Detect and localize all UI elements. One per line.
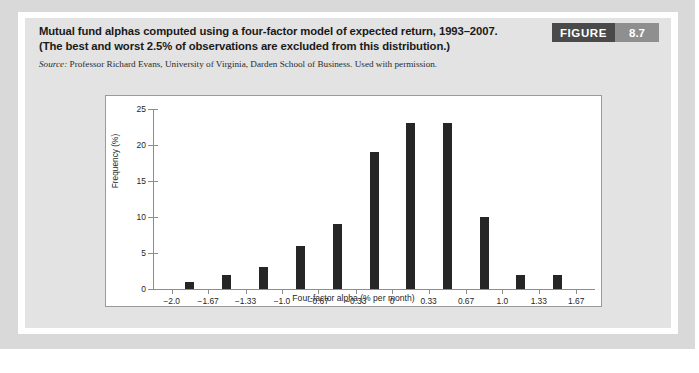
x-axis-tick <box>429 289 430 294</box>
x-axis-tick-label: −1.67 <box>188 296 228 306</box>
x-axis-tick-label: 0 <box>372 296 412 306</box>
x-axis-tick-label: 0.67 <box>446 296 486 306</box>
histogram-bar <box>185 282 194 289</box>
y-axis-tick <box>148 181 158 182</box>
x-axis-tick <box>539 289 540 294</box>
caption-line-2: (The best and worst 2.5% of observations… <box>39 39 529 54</box>
x-axis-tick <box>466 289 467 294</box>
x-axis-tick-label: −1.33 <box>226 296 266 306</box>
y-axis-title: Frequency (%) <box>110 111 120 211</box>
histogram-bar <box>259 267 268 289</box>
histogram-bar <box>406 123 415 289</box>
source-line: Source: Professor Richard Evans, Univers… <box>39 59 529 69</box>
x-axis-tick-label: 0.33 <box>409 296 449 306</box>
y-axis-tick <box>148 109 158 110</box>
x-axis-tick <box>392 289 393 294</box>
plot-area: Frequency (%) Four-factor alpha (% per m… <box>106 96 601 306</box>
y-axis-tick-label: 15 <box>106 176 146 186</box>
histogram-bar <box>296 246 305 289</box>
caption-line-1: Mutual fund alphas computed using a four… <box>39 24 529 39</box>
x-axis-tick-label: −1.0 <box>262 296 302 306</box>
histogram-bar <box>333 224 342 289</box>
y-axis-tick-label: 5 <box>106 248 146 258</box>
y-axis-tick-label: 20 <box>106 140 146 150</box>
x-axis-tick <box>318 289 319 294</box>
source-label: Source: <box>39 59 67 69</box>
figure-header: Mutual fund alphas computed using a four… <box>39 24 529 69</box>
x-axis-tick-label: −0.33 <box>336 296 376 306</box>
x-axis-tick <box>208 289 209 294</box>
x-axis-tick <box>356 289 357 294</box>
x-axis-tick-label: 1.0 <box>482 296 522 306</box>
figure-badge: FIGURE 8.7 <box>552 23 659 42</box>
figure-badge-label: FIGURE <box>552 23 615 42</box>
x-axis-tick <box>502 289 503 294</box>
histogram-bar <box>370 152 379 289</box>
y-axis-tick <box>148 253 158 254</box>
source-text: Professor Richard Evans, University of V… <box>70 59 438 69</box>
y-axis-tick <box>148 289 158 290</box>
y-axis-tick-label: 0 <box>106 284 146 294</box>
y-axis-line <box>153 109 154 289</box>
x-axis-tick <box>246 289 247 294</box>
histogram-bar <box>516 275 525 289</box>
chart-panel: Frequency (%) Four-factor alpha (% per m… <box>105 95 602 307</box>
x-axis-tick <box>172 289 173 294</box>
figure-badge-number: 8.7 <box>615 23 659 42</box>
y-axis-tick <box>148 217 158 218</box>
x-axis-tick-label: −0.67 <box>298 296 338 306</box>
histogram-bar <box>553 275 562 289</box>
x-axis-tick-label: 1.67 <box>556 296 596 306</box>
x-axis-line <box>153 289 595 290</box>
y-axis-tick-label: 25 <box>106 104 146 114</box>
x-axis-tick <box>576 289 577 294</box>
y-axis-tick <box>148 145 158 146</box>
histogram-bar <box>480 217 489 289</box>
histogram-bar <box>222 275 231 289</box>
figure-screenshot: Mutual fund alphas computed using a four… <box>0 0 699 373</box>
x-axis-tick-label: −2.0 <box>152 296 192 306</box>
histogram-bar <box>443 123 452 289</box>
x-axis-tick <box>282 289 283 294</box>
x-axis-tick-label: 1.33 <box>519 296 559 306</box>
y-axis-tick-label: 10 <box>106 212 146 222</box>
figure-panel: Mutual fund alphas computed using a four… <box>25 18 671 328</box>
